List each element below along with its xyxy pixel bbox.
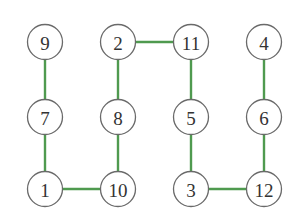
node-label: 1: [40, 180, 50, 201]
node-3: 3: [174, 172, 209, 207]
node-10: 10: [101, 172, 136, 207]
node-label: 2: [113, 33, 123, 54]
nodes-layer: 921147856110312: [28, 25, 282, 207]
node-label: 8: [113, 108, 123, 129]
node-2: 2: [101, 25, 136, 60]
node-label: 3: [186, 180, 196, 201]
node-label: 6: [259, 108, 269, 129]
node-label: 12: [255, 180, 274, 201]
graph-canvas: 921147856110312: [0, 0, 302, 223]
node-11: 11: [174, 25, 209, 60]
node-8: 8: [101, 100, 136, 135]
node-label: 9: [40, 33, 50, 54]
node-1: 1: [28, 172, 63, 207]
edges-layer: [45, 42, 264, 189]
node-5: 5: [174, 100, 209, 135]
node-12: 12: [247, 172, 282, 207]
node-7: 7: [28, 100, 63, 135]
node-label: 11: [182, 33, 200, 54]
node-label: 10: [109, 180, 128, 201]
node-label: 4: [259, 33, 269, 54]
node-6: 6: [247, 100, 282, 135]
node-4: 4: [247, 25, 282, 60]
graph-diagram: 921147856110312: [0, 0, 302, 223]
node-9: 9: [28, 25, 63, 60]
node-label: 7: [40, 108, 50, 129]
node-label: 5: [186, 108, 196, 129]
